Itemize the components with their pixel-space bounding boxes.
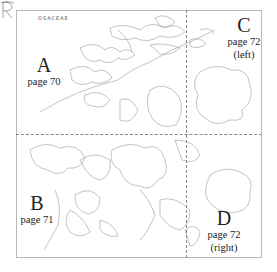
horizontal-cut-line <box>16 134 262 135</box>
section-d-letter: D <box>202 208 246 228</box>
section-d-note: (right) <box>202 243 246 254</box>
section-b-letter: B <box>16 193 58 213</box>
section-a-letter: A <box>22 55 66 75</box>
section-d-page: page 72 <box>202 230 246 241</box>
section-a-page: page 70 <box>22 77 66 88</box>
section-a-label: A page 70 <box>22 55 66 88</box>
section-d-label: D page 72 (right) <box>202 208 246 253</box>
section-b-page: page 71 <box>16 215 58 226</box>
rosaceae-title: OSACEAE <box>38 15 69 21</box>
section-b-label: B page 71 <box>16 193 58 226</box>
section-c-page: page 72 <box>224 37 264 48</box>
section-c-note: (left) <box>224 50 264 61</box>
section-c-label: C page 72 (left) <box>224 15 264 60</box>
section-c-letter: C <box>224 15 264 35</box>
rosaceae-initial-icon <box>0 0 16 20</box>
